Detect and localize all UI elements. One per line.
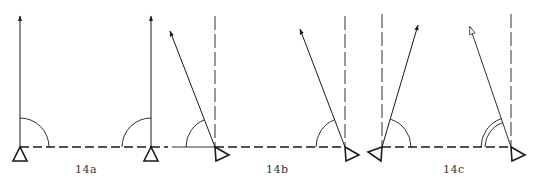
station-triangle-left-icon bbox=[13, 147, 27, 161]
angle-arc-left bbox=[390, 119, 411, 147]
north-arrow-right bbox=[300, 29, 345, 147]
figure-14-diagram: 14a 14b 14c bbox=[0, 0, 535, 184]
angle-arc-right bbox=[316, 120, 335, 147]
figure-label-14a: 14a bbox=[75, 163, 97, 176]
angle-arc-right bbox=[122, 118, 151, 147]
figure-14a: 14a bbox=[13, 16, 168, 176]
angle-arc-left bbox=[20, 118, 49, 147]
figure-14b: 14b bbox=[170, 16, 359, 176]
figure-label-14c: 14c bbox=[443, 163, 465, 176]
station-triangle-left-icon bbox=[215, 147, 229, 161]
figure-label-14b: 14b bbox=[266, 163, 289, 176]
north-arrow-left bbox=[382, 25, 418, 147]
station-triangle-right-icon bbox=[511, 147, 525, 161]
north-arrow-right-open bbox=[470, 27, 511, 147]
angle-arc-right-outer bbox=[481, 119, 502, 147]
station-triangle-left-icon bbox=[368, 147, 382, 161]
station-triangle-right-icon bbox=[144, 147, 158, 161]
angle-arc-left bbox=[186, 120, 205, 147]
figure-14c: 14c bbox=[368, 14, 525, 176]
angle-arc-right-inner bbox=[485, 123, 503, 147]
north-arrow-left bbox=[170, 31, 215, 147]
station-triangle-right-icon bbox=[345, 147, 359, 161]
